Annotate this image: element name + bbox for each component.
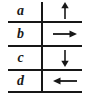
- table-row: b: [0, 23, 88, 45]
- arrow-left-icon: [41, 71, 88, 91]
- direction-table-figure: a b c d: [0, 0, 88, 98]
- arrow-up-icon: [41, 0, 88, 21]
- arrow-down-icon: [41, 47, 88, 69]
- table-row: c: [0, 47, 88, 69]
- row-label-c: c: [0, 47, 41, 69]
- row-label-a: a: [0, 0, 41, 21]
- table-bottom-rule: [8, 91, 82, 93]
- table-row: a: [0, 0, 88, 21]
- row-label-d: d: [0, 71, 41, 91]
- table-row: d: [0, 71, 88, 91]
- arrow-right-icon: [41, 23, 88, 45]
- row-label-b: b: [0, 23, 41, 45]
